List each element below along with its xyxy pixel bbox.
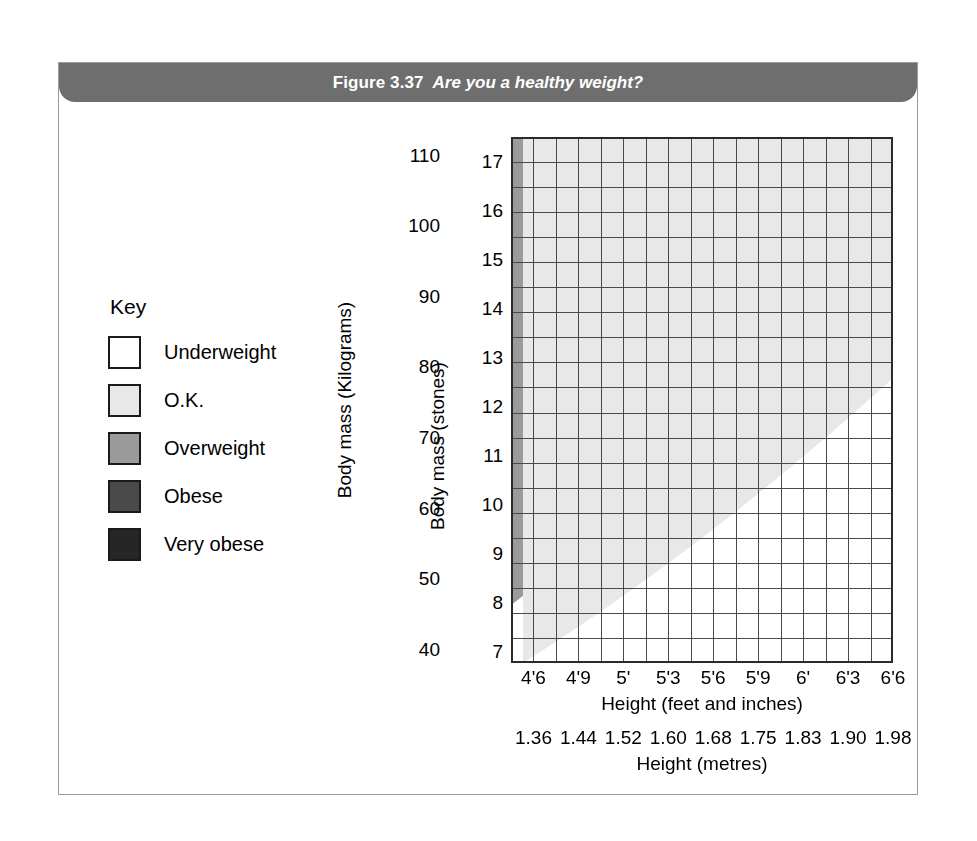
y-tick-stones: 13 — [482, 348, 503, 367]
legend-item-obese: Obese — [108, 472, 358, 520]
legend-swatch-ok — [108, 384, 141, 417]
y-tick-kg: 70 — [419, 428, 440, 447]
y-tick-kg: 80 — [419, 357, 440, 376]
legend-item-ok: O.K. — [108, 376, 358, 424]
y-tick-kg: 100 — [408, 216, 440, 235]
x-axis-title-feet: Height (feet and inches) — [601, 694, 803, 713]
x-tick-metres: 1.44 — [560, 728, 597, 747]
x-tick-feet: 5'3 — [656, 668, 681, 687]
y-tick-kg: 40 — [419, 639, 440, 658]
y-tick-stones: 8 — [492, 592, 503, 611]
x-tick-metres: 1.75 — [740, 728, 777, 747]
y-tick-stones: 17 — [482, 152, 503, 171]
legend-label-very-obese: Very obese — [164, 534, 264, 554]
y-tick-kg: 50 — [419, 569, 440, 588]
legend-swatch-overweight — [108, 432, 141, 465]
x-axis-title-metres: Height (metres) — [637, 754, 768, 773]
bmi-chart-plot — [511, 137, 893, 663]
x-tick-feet: 5'9 — [746, 668, 771, 687]
x-tick-metres: 1.98 — [875, 728, 912, 747]
legend-item-overweight: Overweight — [108, 424, 358, 472]
y-tick-kg: 60 — [419, 498, 440, 517]
chart-legend: Key Underweight O.K. Overweight Obese Ve… — [108, 296, 358, 568]
bmi-band-canvas — [511, 137, 893, 663]
legend-item-very-obese: Very obese — [108, 520, 358, 568]
x-tick-feet: 5' — [616, 668, 630, 687]
legend-label-ok: O.K. — [164, 390, 204, 410]
legend-swatch-underweight — [108, 336, 141, 369]
y-tick-stones: 15 — [482, 250, 503, 269]
x-tick-feet: 6' — [796, 668, 810, 687]
x-axis-ticks-feet: 4'64'95'5'35'65'96'6'36'6 — [511, 668, 893, 690]
legend-label-overweight: Overweight — [164, 438, 265, 458]
y-tick-stones: 16 — [482, 201, 503, 220]
legend-label-underweight: Underweight — [164, 342, 276, 362]
x-tick-feet: 4'6 — [521, 668, 546, 687]
x-tick-feet: 4'9 — [566, 668, 591, 687]
figure-header-bar: Figure 3.37 Are you a healthy weight? — [59, 63, 917, 102]
bmi-band-layer — [511, 137, 893, 663]
y-tick-stones: 14 — [482, 299, 503, 318]
x-tick-metres: 1.60 — [650, 728, 687, 747]
y-tick-stones: 12 — [482, 397, 503, 416]
y-axis-ticks-stones: 1716151413121110987 — [455, 137, 503, 663]
legend-heading: Key — [110, 296, 358, 317]
legend-item-underweight: Underweight — [108, 328, 358, 376]
y-axis-title-kilograms: Body mass (Kilograms) — [335, 302, 354, 498]
figure-page: Figure 3.37 Are you a healthy weight? Ke… — [0, 0, 977, 841]
x-tick-metres: 1.83 — [785, 728, 822, 747]
y-tick-stones: 9 — [492, 543, 503, 562]
y-tick-stones: 10 — [482, 494, 503, 513]
legend-swatch-very-obese — [108, 528, 141, 561]
legend-label-obese: Obese — [164, 486, 223, 506]
figure-title: Are you a healthy weight? — [433, 73, 644, 93]
x-tick-metres: 1.52 — [605, 728, 642, 747]
legend-swatch-obese — [108, 480, 141, 513]
x-tick-feet: 6'6 — [881, 668, 906, 687]
x-tick-feet: 6'3 — [836, 668, 861, 687]
y-tick-stones: 7 — [492, 641, 503, 660]
x-tick-metres: 1.68 — [695, 728, 732, 747]
y-tick-kg: 110 — [410, 145, 440, 164]
y-tick-stones: 11 — [483, 446, 503, 465]
x-tick-metres: 1.36 — [515, 728, 552, 747]
x-tick-feet: 5'6 — [701, 668, 726, 687]
x-tick-metres: 1.90 — [830, 728, 867, 747]
figure-number: Figure 3.37 — [333, 73, 424, 93]
y-axis-ticks-kilograms: 110100908070605040 — [380, 137, 440, 663]
y-tick-kg: 90 — [419, 286, 440, 305]
x-axis-ticks-metres: 1.361.441.521.601.681.751.831.901.98 — [511, 728, 893, 750]
